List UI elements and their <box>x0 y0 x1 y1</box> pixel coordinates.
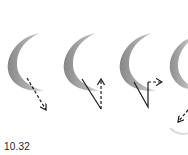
dashed-arrow-icon-4 <box>178 110 188 122</box>
crescent-stroke-1 <box>8 33 44 91</box>
figure-number-label: 10.32 <box>4 141 30 152</box>
crescent-stroke-4 <box>170 36 188 90</box>
brush-stroke-figure: 10.32 <box>0 0 188 155</box>
faint-stroke-4 <box>170 128 188 134</box>
panel-1 <box>8 33 46 110</box>
panel-4 <box>170 36 188 134</box>
dashed-arrow-icon-1 <box>27 78 46 110</box>
crescent-stroke-2 <box>64 33 100 91</box>
panel-3 <box>120 33 162 107</box>
panel-2 <box>64 33 101 109</box>
figure-canvas <box>0 0 188 155</box>
solid-arrow-path-2 <box>82 79 101 109</box>
